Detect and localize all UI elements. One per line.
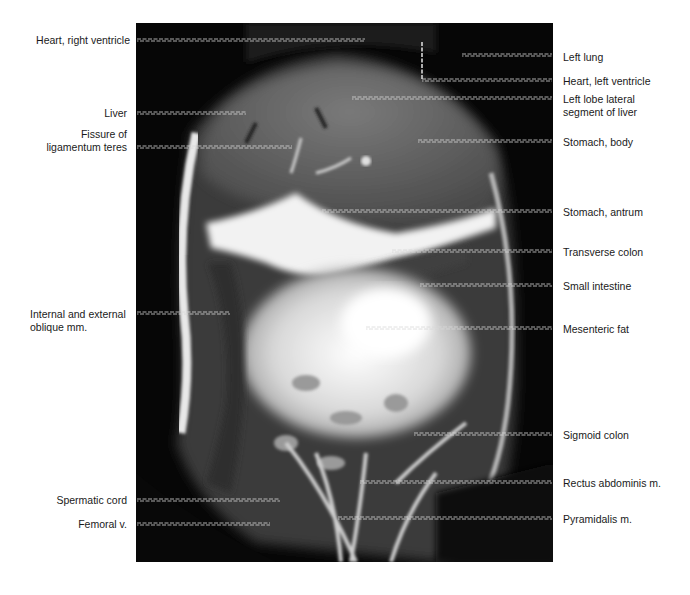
label-heart-right-ventricle: Heart, right ventricle (36, 34, 130, 47)
label-small-intestine: Small intestine (563, 280, 631, 293)
label-spermatic-cord: Spermatic cord (56, 494, 127, 507)
label-stomach-body: Stomach, body (563, 136, 633, 149)
label-stomach-antrum: Stomach, antrum (563, 206, 643, 219)
anatomy-figure: Heart, right ventricle Liver Fissure of … (0, 0, 690, 595)
label-sigmoid-colon: Sigmoid colon (563, 429, 629, 442)
label-transverse-colon: Transverse colon (563, 246, 643, 259)
label-oblique-mm: Internal and external oblique mm. (30, 308, 126, 334)
label-rectus-abdominis: Rectus abdominis m. (563, 477, 661, 490)
label-pyramidalis: Pyramidalis m. (563, 513, 632, 526)
label-liver: Liver (104, 107, 127, 120)
mri-scan-image (136, 23, 553, 562)
label-femoral-v: Femoral v. (78, 518, 127, 531)
label-fissure-ligamentum-teres: Fissure of ligamentum teres (46, 128, 127, 154)
label-left-lung: Left lung (563, 51, 603, 64)
label-left-lobe-lateral-segment: Left lobe lateral segment of liver (563, 93, 637, 119)
mri-scan-rendering (136, 23, 553, 562)
label-heart-left-ventricle: Heart, left ventricle (563, 75, 651, 88)
label-mesenteric-fat: Mesenteric fat (563, 323, 629, 336)
